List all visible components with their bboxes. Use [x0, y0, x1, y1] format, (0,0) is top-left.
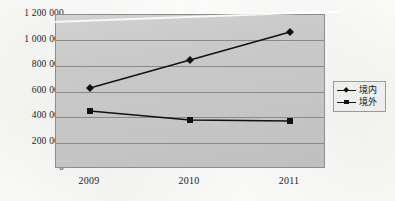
- x-axis-tick-label: 2011: [269, 176, 309, 186]
- data-point-overseas-2009: [87, 108, 93, 114]
- plot-area: [55, 14, 325, 168]
- x-axis-tick-label: 2009: [69, 176, 109, 186]
- legend-item-overseas[interactable]: 境外: [337, 96, 382, 108]
- chart-legend: 境内 境外: [333, 81, 386, 112]
- data-point-overseas-2011: [287, 118, 293, 124]
- diamond-marker-icon: [337, 85, 356, 95]
- data-point-domestic-2010: [186, 56, 194, 64]
- square-marker-icon: [337, 97, 356, 107]
- data-point-domestic-2009: [86, 84, 94, 92]
- legend-label: 境内: [359, 86, 377, 95]
- x-axis-tick-label: 2010: [169, 176, 209, 186]
- legend-label: 境外: [359, 98, 377, 107]
- series-plot: [56, 15, 324, 167]
- chart-screenshot: 1 200 000 1 000 000 800 000 600 000 400 …: [0, 0, 395, 201]
- legend-item-domestic[interactable]: 境内: [337, 84, 382, 96]
- data-point-overseas-2010: [187, 117, 193, 123]
- data-point-domestic-2011: [286, 28, 294, 36]
